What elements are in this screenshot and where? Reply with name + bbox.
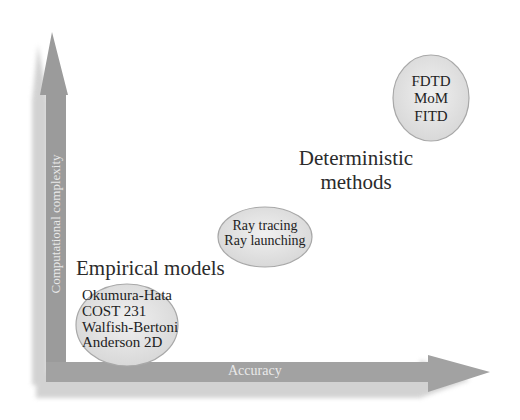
list-item: Walfish-Bertoni [82,320,178,336]
list-item: Ray launching [218,234,312,249]
list-item: Okumura-Hata [82,288,178,304]
list-item: COST 231 [82,304,178,320]
list-item: Ray tracing [218,219,312,234]
list-item: FITD [396,108,466,125]
deterministic-methods-heading: Deterministic methods [290,146,422,194]
list-item: FDTD [396,73,466,90]
list-item: MoM [396,90,466,107]
axes-graphic [0,0,520,420]
ray-methods-list: Ray tracing Ray launching [218,219,312,248]
empirical-models-list: Okumura-Hata COST 231 Walfish-Bertoni An… [82,288,178,351]
y-axis-label: Computational complexity [48,144,64,304]
x-axis-label: Accuracy [228,363,282,379]
empirical-models-heading: Empirical models [76,256,225,281]
list-item: Anderson 2D [82,335,178,351]
full-wave-methods-list: FDTD MoM FITD [396,73,466,125]
